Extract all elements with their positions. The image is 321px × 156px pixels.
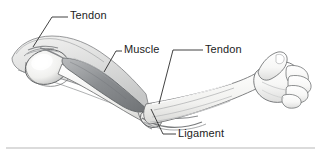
figure-container: Tendon Muscle Tendon Ligament bbox=[0, 0, 321, 156]
arm-anatomy-illustration bbox=[0, 0, 321, 156]
label-muscle: Muscle bbox=[124, 43, 159, 55]
thumb-nail bbox=[276, 54, 284, 63]
label-tendon-right: Tendon bbox=[205, 43, 242, 55]
hand-group bbox=[254, 52, 311, 108]
forearm-group bbox=[144, 72, 262, 124]
label-ligament: Ligament bbox=[178, 127, 224, 139]
label-tendon-upper: Tendon bbox=[70, 9, 107, 21]
